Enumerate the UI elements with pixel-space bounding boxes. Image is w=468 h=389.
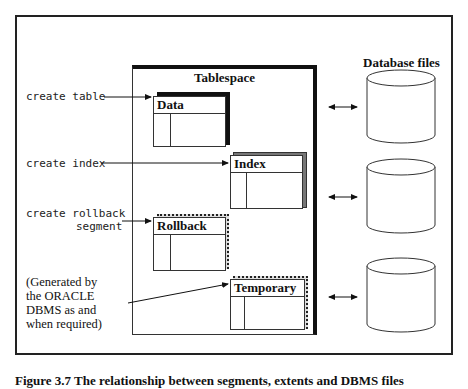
database-file-cylinder-1 [367, 70, 435, 143]
database-file-cylinder-3 [367, 258, 435, 332]
database-file-cylinder-2 [367, 159, 435, 233]
arrow-generated [128, 284, 228, 303]
figure-caption: Figure 3.7 The relationship between segm… [15, 373, 404, 389]
